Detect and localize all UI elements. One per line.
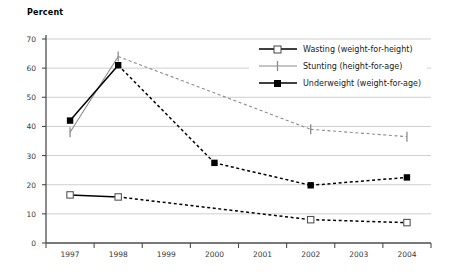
legend-item-stunting: Stunting (height-for-age) — [259, 58, 402, 74]
legend-label-stunting: Stunting (height-for-age) — [303, 62, 402, 71]
y-axis-tick-label: 40 — [14, 122, 36, 131]
x-axis-tick-label: 1998 — [109, 250, 128, 259]
x-axis-tick-label: 1997 — [61, 250, 80, 259]
x-axis-tick-label: 2001 — [253, 250, 272, 259]
y-axis-tick-label: 60 — [14, 64, 36, 73]
vertical-tick-icon — [259, 60, 297, 72]
y-axis-tick-label: 10 — [14, 209, 36, 218]
x-axis-tick-label: 2002 — [301, 250, 320, 259]
y-axis-tick-label: 50 — [14, 93, 36, 102]
legend-item-wasting: Wasting (weight-for-height) — [259, 41, 413, 57]
legend-label-underweight: Underweight (weight-for-age) — [303, 79, 421, 88]
y-axis-tick-label: 20 — [14, 180, 36, 189]
x-axis-tick-label: 1999 — [157, 250, 176, 259]
legend-item-underweight: Underweight (weight-for-age) — [259, 75, 421, 91]
x-axis-tick-label: 2000 — [205, 250, 224, 259]
x-axis-tick-label: 2004 — [397, 250, 416, 259]
filled-square-icon — [259, 77, 297, 89]
y-axis-tick-label: 70 — [14, 35, 36, 44]
open-square-icon — [259, 43, 297, 55]
x-axis-tick-label: 2003 — [349, 250, 368, 259]
chart-container: Percent 706050403020100 1997199819992000… — [0, 0, 456, 272]
chart-legend: Wasting (weight-for-height) Stunting (he… — [249, 40, 427, 92]
legend-label-wasting: Wasting (weight-for-height) — [303, 45, 413, 54]
y-axis-tick-label: 30 — [14, 151, 36, 160]
y-axis-tick-label: 0 — [14, 239, 36, 248]
